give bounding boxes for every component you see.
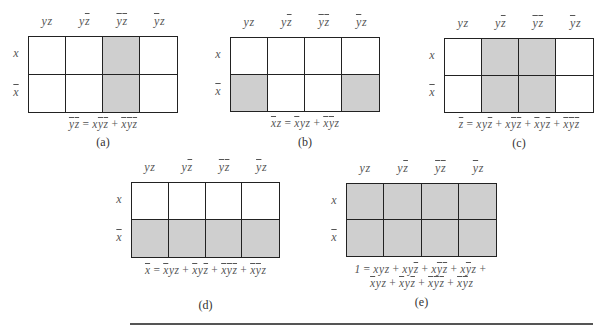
kmap-cell-shaded — [132, 220, 169, 257]
literal: z — [545, 118, 550, 130]
kmap-cell-shaded — [103, 37, 140, 75]
literal: z — [458, 118, 463, 130]
literal: z — [439, 277, 444, 289]
kmap-cell — [445, 76, 482, 113]
row-header: x — [10, 85, 22, 100]
caption-a: (a) — [28, 135, 178, 150]
literal: z — [187, 160, 192, 175]
literal: z — [85, 14, 90, 29]
operator: = — [467, 118, 474, 130]
term: xyz — [563, 118, 579, 130]
operator: + — [418, 277, 425, 289]
literal: z — [468, 277, 473, 289]
operator: + — [479, 263, 486, 275]
term: xyz — [221, 264, 237, 276]
column-header: yz — [28, 14, 66, 29]
literal: x — [145, 264, 151, 276]
operator: + — [313, 117, 320, 129]
literal: 1 — [354, 263, 360, 275]
kmap-cell — [140, 37, 177, 75]
row-header: x — [328, 230, 340, 245]
kmap-cell-shaded — [519, 39, 556, 76]
row-header: x — [113, 192, 125, 207]
kmap-cell-shaded — [519, 76, 556, 113]
literal: z — [487, 118, 492, 130]
kmap-cell — [305, 38, 342, 75]
row-header: x — [426, 85, 438, 100]
term: yz — [69, 118, 80, 130]
kmap-cell-shaded — [231, 75, 268, 112]
term: xyz — [250, 264, 266, 276]
kmap-cell-shaded — [482, 76, 519, 113]
term: z — [458, 118, 463, 130]
operator: = — [153, 264, 160, 276]
kmap-cell — [342, 38, 379, 75]
term: xyz — [373, 263, 389, 275]
literal: z — [232, 264, 237, 276]
kmap-cell-shaded — [459, 220, 496, 256]
literal: x — [116, 192, 122, 207]
column-header: yz — [519, 16, 557, 31]
literal: x — [13, 46, 19, 61]
kmap-cell — [445, 39, 482, 76]
kmap-cell-shaded — [347, 184, 384, 220]
operator: + — [450, 263, 457, 275]
kmap-cell-shaded — [422, 184, 459, 220]
literal: x — [116, 230, 122, 245]
kmap-cell — [305, 75, 342, 112]
literal: z — [381, 277, 386, 289]
term: xyz — [294, 117, 310, 129]
literal: z — [262, 160, 267, 175]
kmap-cell — [206, 183, 243, 220]
literal: x — [215, 84, 221, 99]
term: xyz — [92, 118, 108, 130]
term: xyz — [505, 118, 521, 130]
kmap-cell — [66, 75, 103, 113]
column-header: yz — [65, 14, 103, 29]
kmap-grid — [28, 36, 178, 113]
kmap-cell-shaded — [169, 220, 206, 257]
literal: z — [203, 264, 208, 276]
equation-line: yz=xyz+xyz — [0, 118, 218, 130]
literal: z — [471, 263, 476, 275]
kmap-cell — [169, 183, 206, 220]
term: xyz — [428, 277, 444, 289]
kmap-cell-shaded — [384, 184, 421, 220]
kmap-cell-shaded — [459, 184, 496, 220]
literal: x — [331, 193, 337, 208]
bottom-rule-divider — [130, 323, 593, 325]
literal: x — [215, 47, 221, 62]
operator: + — [389, 277, 396, 289]
row-header: x — [10, 46, 22, 61]
literal: z — [150, 160, 155, 175]
caption-d: (d) — [131, 298, 280, 313]
kmap-cell — [29, 37, 66, 75]
row-header: x — [212, 47, 224, 62]
kmap-cell-shaded — [384, 220, 421, 256]
kmap-cell-shaded — [422, 220, 459, 256]
kmap-cell — [66, 37, 103, 75]
kmap-cell — [556, 76, 593, 113]
term: xyz — [121, 118, 137, 130]
column-header: yz — [556, 16, 594, 31]
literal: z — [384, 263, 389, 275]
term: xyz — [192, 264, 208, 276]
literal: z — [365, 161, 370, 176]
equation-line: 1=xyz+xyz+xyz+xyz+ — [306, 263, 537, 275]
row-header: x — [328, 193, 340, 208]
literal: x — [13, 85, 19, 100]
operator: = — [363, 263, 370, 275]
operator: + — [421, 263, 428, 275]
column-header: yz — [384, 161, 422, 176]
literal: z — [413, 263, 418, 275]
literal: z — [160, 14, 165, 29]
row-header: x — [113, 230, 125, 245]
literal: z — [334, 117, 339, 129]
term: xyz — [370, 277, 386, 289]
term: xyz — [431, 263, 447, 275]
operator: + — [392, 263, 399, 275]
column-header: yz — [305, 15, 343, 30]
kmap-grid — [131, 182, 280, 258]
column-header: yz — [168, 160, 206, 175]
kmap-cell-shaded — [103, 75, 140, 113]
